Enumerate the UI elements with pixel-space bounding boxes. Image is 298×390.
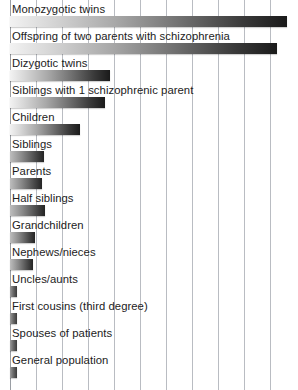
bar-label: Parents [12, 164, 51, 178]
bar-rows-container: Monozygotic twinsOffspring of two parent… [0, 0, 298, 390]
bar-label: Grandchildren [12, 218, 84, 232]
bar-label: General population [12, 353, 108, 367]
bar-fill [10, 43, 277, 54]
bar-track [10, 367, 17, 378]
bar-label: Children [12, 110, 54, 124]
bar-label: Nephews/nieces [12, 245, 96, 259]
bar-fill [10, 259, 33, 270]
bar-track [10, 313, 17, 324]
bar-row: Children [0, 110, 298, 137]
bar-fill [10, 340, 17, 351]
bar-track [10, 43, 277, 54]
bar-track [10, 205, 45, 216]
bar-label: First cousins (third degree) [12, 299, 148, 313]
schizophrenia-risk-bar-chart: Monozygotic twinsOffspring of two parent… [0, 0, 298, 390]
bar-track [10, 259, 33, 270]
bar-fill [10, 151, 44, 162]
bar-row: Spouses of patients [0, 326, 298, 353]
bar-row: Siblings [0, 137, 298, 164]
bar-label: Dizygotic twins [12, 56, 87, 70]
plot-area: Monozygotic twinsOffspring of two parent… [0, 0, 298, 390]
bar-row: Dizygotic twins [0, 56, 298, 83]
bar-row: First cousins (third degree) [0, 299, 298, 326]
bar-row: Half siblings [0, 191, 298, 218]
bar-fill [10, 178, 42, 189]
bar-label: Uncles/aunts [12, 272, 78, 286]
bar-row: Offspring of two parents with schizophre… [0, 29, 298, 56]
bar-fill [10, 97, 105, 108]
bar-label: Siblings [12, 137, 52, 151]
bar-row: Siblings with 1 schizophrenic parent [0, 83, 298, 110]
bar-label: Half siblings [12, 191, 74, 205]
bar-label: Spouses of patients [12, 326, 112, 340]
bar-track [10, 70, 110, 81]
bar-track [10, 124, 80, 135]
bar-fill [10, 205, 45, 216]
bar-track [10, 286, 17, 297]
bar-label: Monozygotic twins [12, 2, 105, 16]
bar-label: Offspring of two parents with schizophre… [12, 29, 230, 43]
bar-track [10, 178, 42, 189]
bar-row: Grandchildren [0, 218, 298, 245]
bar-fill [10, 313, 17, 324]
bar-row: General population [0, 353, 298, 380]
bar-fill [10, 286, 17, 297]
bar-fill [10, 367, 17, 378]
bar-fill [10, 70, 110, 81]
bar-row: Nephews/nieces [0, 245, 298, 272]
bar-fill [10, 232, 35, 243]
bar-fill [10, 124, 80, 135]
bar-track [10, 340, 17, 351]
bar-row: Parents [0, 164, 298, 191]
bar-row: Monozygotic twins [0, 2, 298, 29]
bar-track [10, 16, 287, 27]
bar-track [10, 151, 44, 162]
bar-track [10, 97, 105, 108]
bar-track [10, 232, 35, 243]
bar-label: Siblings with 1 schizophrenic parent [12, 83, 193, 97]
bar-row: Uncles/aunts [0, 272, 298, 299]
bar-fill [10, 16, 287, 27]
